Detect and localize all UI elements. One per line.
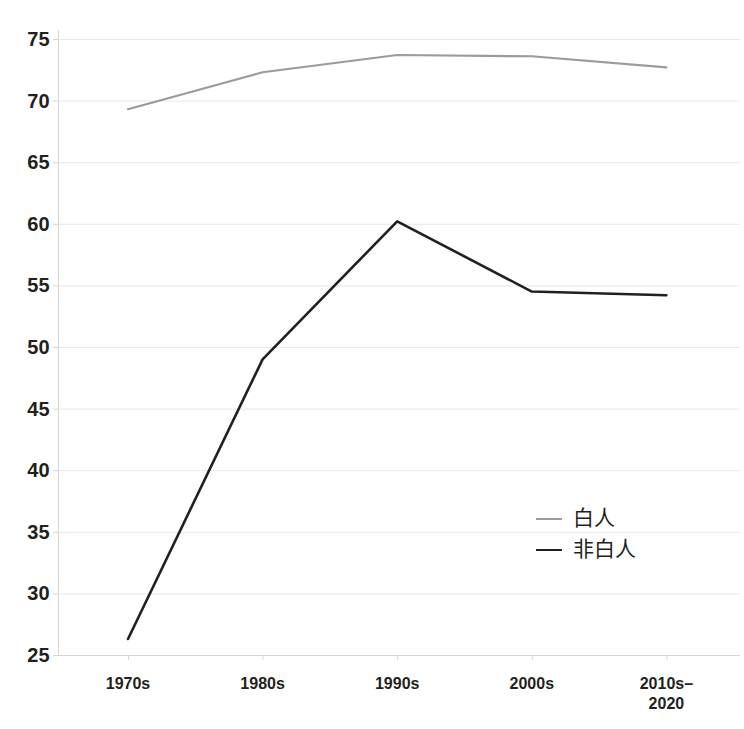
x-axis-tick-label: 2000s <box>462 674 602 694</box>
legend-item-white[interactable]: 白人 <box>536 503 696 534</box>
line-chart: 7570656055504540353025 1970s1980s1990s20… <box>0 0 744 729</box>
y-axis-tick-label: 75 <box>4 29 50 49</box>
y-axis-tick-label: 30 <box>4 583 50 603</box>
x-axis-tick-label: 1980s <box>193 674 333 694</box>
y-axis-tick-label: 60 <box>4 214 50 234</box>
legend-item-label: 非白人 <box>573 539 636 560</box>
y-axis-tick-label: 70 <box>4 91 50 111</box>
legend-item-label: 白人 <box>573 508 615 529</box>
legend-line-swatch-icon <box>536 549 562 551</box>
y-axis-tick-label: 25 <box>4 645 50 665</box>
y-axis-tick-label: 35 <box>4 522 50 542</box>
y-axis-tick-label: 45 <box>4 399 50 419</box>
x-axis-tick-label: 1970s <box>58 674 198 694</box>
x-axis-tick-label: 2010s–2020 <box>596 674 736 714</box>
chart-plot-area <box>0 0 744 729</box>
legend-item-nonwhite[interactable]: 非白人 <box>536 534 696 565</box>
y-axis-tick-label: 55 <box>4 275 50 295</box>
chart-legend: 白人 非白人 <box>536 503 696 565</box>
y-axis-tick-label: 50 <box>4 337 50 357</box>
x-axis-tick-label: 1990s <box>327 674 467 694</box>
legend-line-swatch-icon <box>536 518 562 520</box>
y-axis-tick-label: 65 <box>4 152 50 172</box>
y-axis-labels: 7570656055504540353025 <box>0 0 50 729</box>
y-axis-tick-label: 40 <box>4 460 50 480</box>
series-line-nonwhite <box>128 221 666 639</box>
